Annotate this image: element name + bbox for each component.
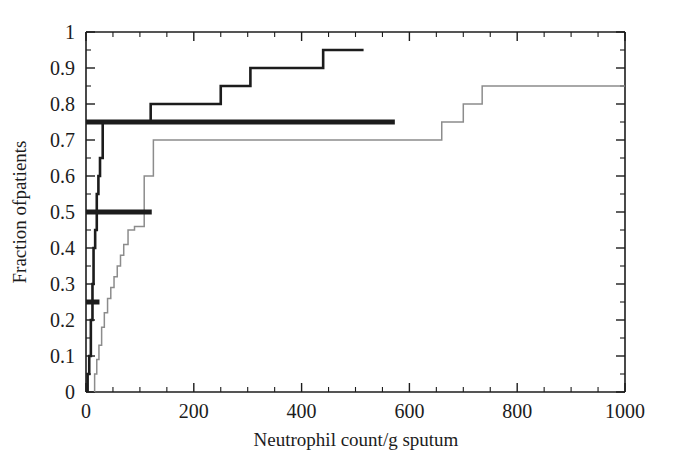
y-tick-label: 0.4 (50, 237, 75, 259)
y-tick-label: 0.6 (50, 165, 75, 187)
y-tick-label: 0.3 (50, 273, 75, 295)
annotation-layer (86, 122, 395, 302)
chart-svg: 02004006008001000 00.10.20.30.40.50.60.7… (0, 0, 675, 467)
series-light-step-curve (95, 86, 625, 392)
y-tick-label: 0.5 (50, 201, 75, 223)
x-tick-label: 400 (287, 400, 317, 422)
y-tick-label-layer: 00.10.20.30.40.50.60.70.80.91 (50, 21, 75, 403)
x-axis-title: Neutrophil count/g sputum (254, 429, 459, 450)
x-tick-label: 800 (502, 400, 532, 422)
x-tick-label: 600 (394, 400, 424, 422)
y-tick-label: 1 (65, 21, 75, 43)
x-tick-label-layer: 02004006008001000 (81, 400, 645, 422)
x-tick-label: 200 (179, 400, 209, 422)
y-tick-label: 0.2 (50, 309, 75, 331)
series-dark-step-curve (88, 50, 364, 392)
x-tick-label: 1000 (605, 400, 645, 422)
x-tick-label: 0 (81, 400, 91, 422)
data-series-layer (88, 50, 625, 392)
y-tick-label: 0 (65, 381, 75, 403)
y-tick-label: 0.8 (50, 93, 75, 115)
y-tick-label: 0.7 (50, 129, 75, 151)
y-axis-title: Fraction ofpatients (9, 141, 30, 284)
y-tick-label: 0.9 (50, 57, 75, 79)
y-tick-label: 0.1 (50, 345, 75, 367)
chart-figure: 02004006008001000 00.10.20.30.40.50.60.7… (0, 0, 675, 467)
